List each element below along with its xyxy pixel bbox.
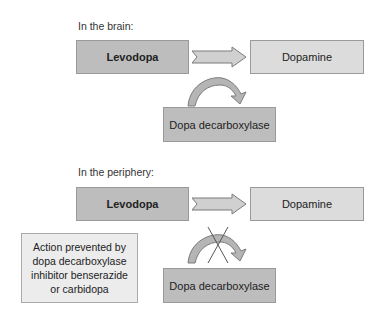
periphery-enzyme-box: Dopa decarboxylase	[163, 268, 276, 303]
brain-conversion-arrow-icon	[192, 47, 248, 67]
brain-dopamine-box: Dopamine	[250, 40, 364, 74]
periphery-dopamine-box: Dopamine	[250, 187, 364, 221]
periphery-levodopa-box: Levodopa	[76, 187, 189, 221]
periphery-heading: In the periphery:	[78, 166, 154, 178]
brain-levodopa-box: Levodopa	[76, 40, 189, 74]
periphery-blocked-enzyme-arrow-icon	[186, 227, 256, 267]
brain-enzyme-box: Dopa decarboxylase	[163, 107, 276, 142]
brain-enzyme-action-arrow-icon	[186, 76, 256, 108]
periphery-conversion-arrow-icon	[192, 194, 248, 214]
brain-heading: In the brain:	[78, 20, 133, 32]
inhibitor-note-box: Action prevented by dopa decarboxylase i…	[21, 233, 138, 303]
